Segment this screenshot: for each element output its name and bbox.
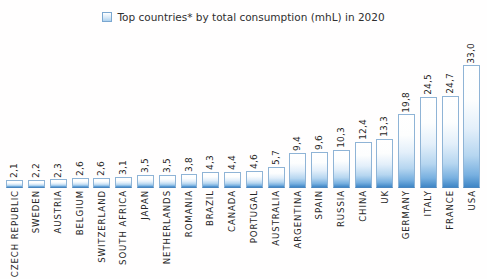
bar[interactable] bbox=[268, 167, 285, 188]
bar[interactable] bbox=[289, 153, 306, 188]
category-label: SPAIN bbox=[315, 190, 324, 219]
bar-column: 9,4 bbox=[287, 30, 309, 188]
category-tick: BELGIUM bbox=[69, 190, 91, 279]
bar[interactable] bbox=[355, 142, 372, 188]
bar-column: 2,3 bbox=[48, 30, 70, 188]
bar-value-label: 2,6 bbox=[97, 161, 106, 176]
bar-value-label: 2,6 bbox=[76, 161, 85, 176]
category-label: USA bbox=[468, 190, 477, 210]
bar[interactable] bbox=[224, 172, 241, 188]
category-tick: JAPAN bbox=[135, 190, 157, 279]
bar[interactable] bbox=[376, 139, 393, 188]
bar-value-label: 24,5 bbox=[424, 74, 433, 95]
category-tick: CHINA bbox=[352, 190, 374, 279]
bar[interactable] bbox=[311, 152, 328, 188]
bar-column: 24,5 bbox=[418, 30, 440, 188]
bar[interactable] bbox=[28, 180, 45, 188]
bar[interactable] bbox=[442, 96, 459, 188]
bar-column: 19,8 bbox=[396, 30, 418, 188]
category-label: FRANCE bbox=[446, 190, 455, 230]
category-label: CANADA bbox=[228, 190, 237, 232]
bar-value-label: 13,3 bbox=[380, 116, 389, 137]
bar-value-label: 3,5 bbox=[163, 158, 172, 173]
bar[interactable] bbox=[72, 178, 89, 188]
bar-column: 10,3 bbox=[330, 30, 352, 188]
category-tick: GERMANY bbox=[396, 190, 418, 279]
bar[interactable] bbox=[398, 114, 415, 188]
bar-column: 3,5 bbox=[135, 30, 157, 188]
bar-value-label: 9,6 bbox=[315, 135, 324, 150]
category-tick: CZECH REPUBLIC bbox=[4, 190, 26, 279]
category-label: PORTUGAL bbox=[250, 190, 259, 243]
category-label: GERMANY bbox=[402, 190, 411, 239]
bar[interactable] bbox=[181, 174, 198, 188]
bar-column: 3,1 bbox=[113, 30, 135, 188]
category-tick: CANADA bbox=[222, 190, 244, 279]
bar-column: 9,6 bbox=[309, 30, 331, 188]
category-label: BRAZIL bbox=[206, 190, 215, 226]
category-tick: AUSTRIA bbox=[48, 190, 70, 279]
bar[interactable] bbox=[159, 175, 176, 188]
bar-column: 5,7 bbox=[265, 30, 287, 188]
bar-value-label: 2,3 bbox=[54, 163, 63, 178]
category-label: ROMANIA bbox=[185, 190, 194, 237]
bar[interactable] bbox=[137, 175, 154, 188]
bar-column: 13,3 bbox=[374, 30, 396, 188]
category-label: AUSTRALIA bbox=[272, 190, 281, 246]
bar-column: 4,6 bbox=[243, 30, 265, 188]
bar-value-label: 33,0 bbox=[467, 43, 476, 64]
bar[interactable] bbox=[420, 97, 437, 188]
bar-value-label: 2,2 bbox=[32, 163, 41, 178]
bar-value-label: 4,6 bbox=[250, 154, 259, 169]
category-tick: UK bbox=[374, 190, 396, 279]
bar-column: 2,6 bbox=[91, 30, 113, 188]
bar[interactable] bbox=[463, 65, 480, 188]
category-tick: SWITZERLAND bbox=[91, 190, 113, 279]
category-label: CZECH REPUBLIC bbox=[11, 190, 20, 277]
category-tick: RUSSIA bbox=[330, 190, 352, 279]
bar-column: 3,5 bbox=[156, 30, 178, 188]
category-label: AUSTRIA bbox=[54, 190, 63, 234]
category-tick: SOUTH AFRICA bbox=[113, 190, 135, 279]
plot-area: 2,12,22,32,62,63,13,53,53,84,34,44,65,79… bbox=[4, 30, 483, 188]
bar[interactable] bbox=[115, 177, 132, 189]
category-tick: PORTUGAL bbox=[243, 190, 265, 279]
category-tick: SPAIN bbox=[309, 190, 331, 279]
category-label: ARGENTINA bbox=[294, 190, 303, 249]
bar-value-label: 3,8 bbox=[185, 157, 194, 172]
bar[interactable] bbox=[6, 180, 23, 188]
bar-chart: Top countries* by total consumption (mhL… bbox=[0, 0, 487, 279]
bar-value-label: 24,7 bbox=[446, 73, 455, 94]
category-tick: NETHERLANDS bbox=[156, 190, 178, 279]
bar[interactable] bbox=[50, 179, 67, 188]
category-tick: ARGENTINA bbox=[287, 190, 309, 279]
category-tick: USA bbox=[461, 190, 483, 279]
bar-column: 33,0 bbox=[461, 30, 483, 188]
bar[interactable] bbox=[246, 171, 263, 188]
bar-value-label: 3,5 bbox=[141, 158, 150, 173]
bar-value-label: 12,4 bbox=[359, 119, 368, 140]
category-tick: ROMANIA bbox=[178, 190, 200, 279]
category-label: CHINA bbox=[359, 190, 368, 222]
category-axis: CZECH REPUBLICSWEDENAUSTRIABELGIUMSWITZE… bbox=[4, 190, 483, 279]
category-tick: BRAZIL bbox=[200, 190, 222, 279]
category-tick: AUSTRALIA bbox=[265, 190, 287, 279]
bar-column: 12,4 bbox=[352, 30, 374, 188]
bar-value-label: 4,3 bbox=[206, 155, 215, 170]
legend-swatch-icon bbox=[102, 12, 112, 22]
legend-label: Top countries* by total consumption (mhL… bbox=[117, 11, 384, 23]
category-label: SWITZERLAND bbox=[98, 190, 107, 263]
bar-value-label: 3,1 bbox=[119, 160, 128, 175]
category-label: SOUTH AFRICA bbox=[119, 190, 128, 265]
bar-column: 4,4 bbox=[222, 30, 244, 188]
bar-column: 2,1 bbox=[4, 30, 26, 188]
category-label: RUSSIA bbox=[337, 190, 346, 227]
bar[interactable] bbox=[202, 172, 219, 188]
bar[interactable] bbox=[333, 150, 350, 188]
category-label: JAPAN bbox=[141, 190, 150, 220]
bar[interactable] bbox=[93, 178, 110, 188]
bar-column: 3,8 bbox=[178, 30, 200, 188]
category-tick: SWEDEN bbox=[26, 190, 48, 279]
category-label: BELGIUM bbox=[76, 190, 85, 235]
category-label: ITALY bbox=[424, 190, 433, 216]
